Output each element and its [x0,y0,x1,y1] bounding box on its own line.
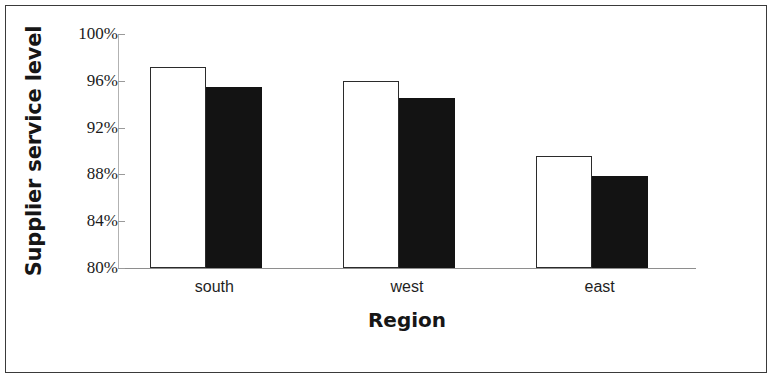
x-axis-title: Region [118,308,696,332]
y-tick-mark [118,128,125,129]
bar-south-filled [206,87,262,268]
x-axis-line [118,268,696,269]
y-tick-label: 84% [48,211,118,231]
bar-south-open [150,67,206,268]
y-tick-mark [118,221,125,222]
x-tick-label-south: south [118,278,311,296]
x-tick-label-east: east [503,278,696,296]
bar-east-open [536,156,592,268]
y-tick-mark [118,268,125,269]
y-tick-label: 88% [48,164,118,184]
bar-east-filled [592,176,648,268]
y-tick-label: 100% [48,24,118,44]
y-tick-label: 96% [48,71,118,91]
x-tick-label-west: west [311,278,504,296]
y-tick-label: 80% [48,258,118,278]
chart-figure: Supplier service level 80%84%88%92%96%10… [5,5,767,373]
bar-west-open [343,81,399,268]
bar-west-filled [399,98,455,268]
y-axis-line [118,34,119,269]
y-tick-mark [118,34,125,35]
y-tick-mark [118,174,125,175]
y-tick-label: 92% [48,118,118,138]
y-tick-mark [118,81,125,82]
